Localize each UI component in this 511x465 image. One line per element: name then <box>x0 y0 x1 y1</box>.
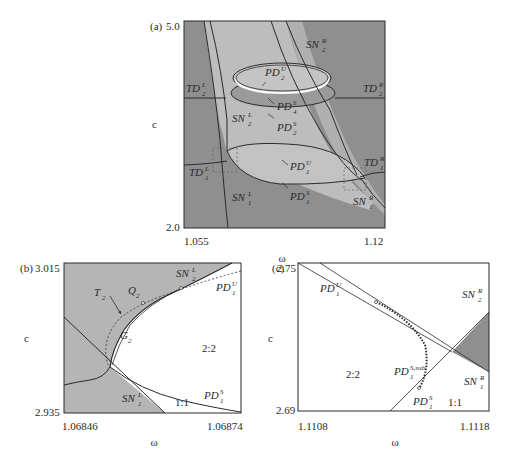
svg-text:L: L <box>247 190 252 198</box>
svg-text:2: 2 <box>281 74 285 82</box>
svg-text:SN: SN <box>232 112 246 124</box>
svg-text:PD: PD <box>319 282 335 294</box>
svg-text:S: S <box>306 189 310 197</box>
svg-text:R: R <box>477 287 483 295</box>
svg-text:PD: PD <box>289 160 305 172</box>
svg-text:1: 1 <box>410 373 414 381</box>
panel-a-xtick-left: 1.055 <box>184 235 209 247</box>
svg-text:PD: PD <box>276 100 292 112</box>
svg-text:2: 2 <box>293 129 297 137</box>
panel-a: (a) 5.0 2.0 1.055 1.12 ω c SN R 2 PD U 2… <box>150 20 385 264</box>
svg-text:SN: SN <box>176 267 190 279</box>
svg-text:1: 1 <box>306 168 310 176</box>
panel-c-ytick-top: 2.75 <box>277 262 297 274</box>
svg-text:R: R <box>379 155 385 163</box>
svg-text:G: G <box>120 329 128 341</box>
svg-text:R: R <box>378 81 384 89</box>
panel-b-ylabel: c <box>24 332 29 344</box>
region-b-1-1: 1:1 <box>175 396 189 408</box>
svg-text:2: 2 <box>136 292 140 300</box>
svg-text:1: 1 <box>380 164 384 172</box>
q2-marker <box>142 302 145 305</box>
svg-text:L: L <box>201 81 206 89</box>
svg-text:1: 1 <box>205 174 209 182</box>
svg-text:2: 2 <box>202 90 206 98</box>
sn2l-marker <box>180 287 183 290</box>
panel-c-ylabel: c <box>268 332 273 344</box>
svg-text:1: 1 <box>232 289 236 297</box>
svg-text:SN: SN <box>122 392 136 404</box>
svg-text:PD: PD <box>412 395 428 407</box>
panel-c-ytick-bottom: 2.69 <box>276 404 296 416</box>
svg-text:L: L <box>204 165 209 173</box>
svg-text:PD: PD <box>393 365 409 377</box>
svg-text:PD: PD <box>289 190 305 202</box>
panel-b: (b) 3.015 2.935 1.06846 1.06874 ω c SN L… <box>20 262 243 448</box>
panel-a-xtick-right: 1.12 <box>364 235 383 247</box>
svg-text:SN: SN <box>306 38 320 50</box>
svg-text:S: S <box>293 99 297 107</box>
panel-c-xtick-right: 1.1118 <box>460 420 490 432</box>
svg-text:SN: SN <box>232 191 246 203</box>
region-c-1-1: 1:1 <box>448 396 462 408</box>
svg-text:S: S <box>429 394 433 402</box>
panel-b-label: (b) <box>20 262 33 275</box>
panel-c: (c) 2.75 2.69 1.1108 1.1118 ω c PD U 1 S… <box>268 262 490 448</box>
svg-text:1: 1 <box>369 203 373 211</box>
bifurcation-figure: (a) 5.0 2.0 1.055 1.12 ω c SN R 2 PD U 2… <box>0 0 511 465</box>
svg-text:1: 1 <box>138 400 142 408</box>
svg-text:R: R <box>368 194 374 202</box>
svg-text:1: 1 <box>220 397 224 405</box>
panel-c-xlabel: ω <box>391 436 398 448</box>
panel-a-ytick-bottom: 2.0 <box>166 221 180 233</box>
svg-text:1: 1 <box>429 403 433 411</box>
svg-text:2: 2 <box>322 46 326 54</box>
svg-text:4: 4 <box>293 108 297 116</box>
svg-text:Q: Q <box>128 284 136 296</box>
svg-text:SN: SN <box>462 288 476 300</box>
svg-text:2: 2 <box>192 275 196 283</box>
svg-text:TD: TD <box>364 156 378 168</box>
svg-text:2: 2 <box>248 120 252 128</box>
svg-text:SN: SN <box>353 195 367 207</box>
svg-text:L: L <box>247 111 252 119</box>
svg-text:PD: PD <box>276 121 292 133</box>
panel-b-xlabel: ω <box>150 436 157 448</box>
svg-text:TD: TD <box>189 166 203 178</box>
svg-text:S: S <box>293 120 297 128</box>
svg-text:TD: TD <box>186 82 200 94</box>
panel-b-xtick-right: 1.06874 <box>207 420 243 432</box>
panel-b-ytick-bottom: 2.935 <box>35 406 60 418</box>
panel-b-ytick-top: 3.015 <box>35 262 60 274</box>
svg-text:1: 1 <box>480 383 484 391</box>
svg-text:PD: PD <box>203 389 219 401</box>
svg-text:1: 1 <box>306 198 310 206</box>
svg-text:L: L <box>191 266 196 274</box>
svg-text:2: 2 <box>102 294 106 302</box>
svg-text:1: 1 <box>248 199 252 207</box>
region-c-2-2: 2:2 <box>346 368 360 380</box>
panel-a-label: (a) <box>150 20 163 33</box>
panel-b-xtick-left: 1.06846 <box>62 420 98 432</box>
svg-text:S,sub: S,sub <box>410 364 425 372</box>
svg-text:2: 2 <box>379 90 383 98</box>
svg-text:1: 1 <box>336 290 340 298</box>
svg-text:R: R <box>479 374 485 382</box>
svg-text:T: T <box>94 286 101 298</box>
svg-text:PD: PD <box>264 66 280 78</box>
svg-text:SN: SN <box>464 375 478 387</box>
panel-a-ylabel: c <box>152 118 157 130</box>
region-b-2-2: 2:2 <box>202 342 216 354</box>
panel-c-xtick-left: 1.1108 <box>298 420 328 432</box>
panel-a-ytick-top: 5.0 <box>166 20 180 32</box>
svg-text:S: S <box>220 388 224 396</box>
svg-text:R: R <box>321 37 327 45</box>
svg-text:L: L <box>137 391 142 399</box>
svg-text:2: 2 <box>128 337 132 345</box>
svg-text:2: 2 <box>478 296 482 304</box>
svg-text:TD: TD <box>363 82 377 94</box>
svg-text:PD: PD <box>215 281 231 293</box>
